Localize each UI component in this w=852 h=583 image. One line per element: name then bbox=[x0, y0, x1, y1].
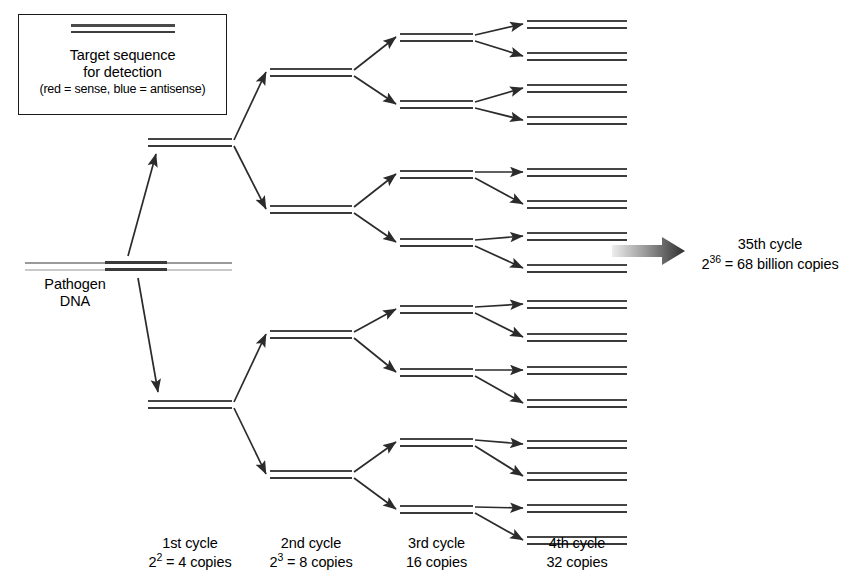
sense-strand bbox=[400, 368, 473, 370]
duplex-cycle-4-2 bbox=[527, 52, 627, 61]
legend-line-2: for detection bbox=[19, 64, 226, 81]
duplex-cycle-3-8 bbox=[400, 505, 473, 514]
sense-strand bbox=[527, 504, 627, 506]
cycle-label-cycle-4: 4th cycle32 copies bbox=[507, 534, 647, 572]
arrow-c1-2-to-c2-4 bbox=[234, 408, 266, 474]
sense-strand bbox=[270, 330, 352, 332]
legend-antisense-strand bbox=[71, 31, 175, 34]
duplex-cycle-3-6 bbox=[400, 368, 473, 377]
cycle-label-rest: = 8 copies bbox=[283, 554, 352, 570]
sense-strand bbox=[527, 52, 627, 54]
duplex-cycle-3-1 bbox=[400, 33, 473, 42]
cycle-label-copies: 23 = 8 copies bbox=[241, 553, 381, 572]
duplex-cycle-4-4 bbox=[527, 116, 627, 125]
duplex-cycle-1-1 bbox=[148, 138, 232, 147]
arrow-c3-7-to-c4-13 bbox=[475, 440, 523, 444]
antisense-strand bbox=[527, 207, 627, 209]
antisense-strand bbox=[527, 123, 627, 125]
antisense-strand bbox=[400, 312, 473, 314]
sense-strand bbox=[527, 399, 627, 401]
arrow-c3-5-to-c4-9 bbox=[475, 304, 523, 307]
antisense-strand bbox=[148, 407, 232, 409]
duplex-cycle-4-15 bbox=[527, 504, 627, 513]
sense-strand bbox=[400, 238, 473, 240]
duplex-cycle-3-3 bbox=[400, 170, 473, 179]
arrow-c3-4-to-c4-7 bbox=[475, 236, 523, 240]
duplex-cycle-4-5 bbox=[527, 168, 627, 177]
legend-target-duplex bbox=[71, 24, 175, 34]
cycle-label-title: 1st cycle bbox=[120, 534, 260, 553]
duplex-cycle-3-7 bbox=[400, 438, 473, 447]
cycle-label-title: 4th cycle bbox=[507, 534, 647, 553]
antisense-strand bbox=[527, 59, 627, 61]
sense-strand bbox=[527, 232, 627, 234]
antisense-strand bbox=[527, 91, 627, 93]
arrow-c3-1-to-c4-2 bbox=[475, 41, 523, 56]
arrow-c1-1-to-c2-1 bbox=[234, 72, 266, 140]
sense-strand bbox=[400, 438, 473, 440]
duplex-cycle-4-13 bbox=[527, 440, 627, 449]
cycle-label-cycle-1: 1st cycle22 = 4 copies bbox=[120, 534, 260, 572]
legend-text-block: Target sequence for detection (red = sen… bbox=[19, 47, 226, 98]
duplex-cycle-4-9 bbox=[527, 300, 627, 309]
sense-strand bbox=[527, 20, 627, 22]
final-cycle-line-2: 236 = 68 billion copies bbox=[690, 254, 850, 274]
duplex-cycle-3-5 bbox=[400, 305, 473, 314]
arrow-c3-5-to-c4-10 bbox=[475, 313, 523, 337]
final-cycle-annotation: 35th cycle 236 = 68 billion copies bbox=[690, 234, 850, 274]
duplex-cycle-4-1 bbox=[527, 20, 627, 29]
sense-strand bbox=[270, 205, 352, 207]
duplex-cycle-4-6 bbox=[527, 200, 627, 209]
pathogen-label-line-1: Pathogen bbox=[27, 276, 123, 293]
legend-box: Target sequence for detection (red = sen… bbox=[18, 14, 227, 115]
pathogen-label-line-2: DNA bbox=[27, 293, 123, 310]
antisense-strand bbox=[400, 512, 473, 514]
antisense-strand bbox=[527, 447, 627, 449]
antisense-strand bbox=[400, 177, 473, 179]
antisense-strand bbox=[527, 175, 627, 177]
duplex-cycle-4-14 bbox=[527, 472, 627, 481]
sense-strand bbox=[527, 472, 627, 474]
cycle-label-copies: 22 = 4 copies bbox=[120, 553, 260, 572]
arrow-c3-2-to-c4-3 bbox=[475, 88, 523, 102]
antisense-strand bbox=[527, 340, 627, 342]
sense-strand bbox=[270, 68, 352, 70]
final-cycle-line-1: 35th cycle bbox=[690, 234, 850, 254]
sense-strand bbox=[400, 100, 473, 102]
duplex-cycle-2-4 bbox=[270, 470, 352, 479]
antisense-strand bbox=[527, 373, 627, 375]
cycle-label-cycle-3: 3rd cycle16 copies bbox=[367, 534, 507, 572]
arrow-c3-2-to-c4-4 bbox=[475, 108, 523, 120]
arrow-c2-3-to-c3-6 bbox=[354, 338, 396, 372]
duplex-cycle-4-3 bbox=[527, 84, 627, 93]
duplex-cycle-4-12 bbox=[527, 399, 627, 408]
duplex-cycle-3-2 bbox=[400, 100, 473, 109]
arrow-c2-2-to-c3-3 bbox=[354, 174, 396, 207]
arrow-c2-4-to-c3-8 bbox=[354, 478, 396, 509]
pathogen-dna-label: Pathogen DNA bbox=[27, 276, 123, 310]
legend-line-1: Target sequence bbox=[19, 47, 226, 64]
antisense-strand bbox=[400, 107, 473, 109]
duplex-cycle-3-4 bbox=[400, 238, 473, 247]
arrow-source-to-cycle1-1 bbox=[128, 154, 156, 256]
duplex-cycle-2-2 bbox=[270, 205, 352, 214]
antisense-strand bbox=[270, 212, 352, 214]
antisense-strand bbox=[400, 40, 473, 42]
final-exponent: 36 bbox=[709, 253, 720, 265]
sense-strand bbox=[527, 440, 627, 442]
legend-sense-strand bbox=[71, 24, 175, 27]
sense-strand bbox=[527, 366, 627, 368]
legend-line-3: (red = sense, blue = antisense) bbox=[19, 81, 226, 98]
cycle-label-rest: = 4 copies bbox=[162, 554, 231, 570]
antisense-strand bbox=[400, 445, 473, 447]
arrow-c3-8-to-c4-15 bbox=[475, 507, 523, 508]
pcr-diagram-canvas: Target sequence for detection (red = sen… bbox=[0, 0, 852, 583]
cycle-label-copies: 32 copies bbox=[507, 553, 647, 572]
antisense-strand bbox=[270, 75, 352, 77]
sense-strand bbox=[400, 33, 473, 35]
duplex-cycle-4-11 bbox=[527, 366, 627, 375]
arrow-c3-6-to-c4-12 bbox=[475, 376, 523, 403]
duplex-cycle-4-10 bbox=[527, 333, 627, 342]
cycle-label-cycle-2: 2nd cycle23 = 8 copies bbox=[241, 534, 381, 572]
arrow-c2-2-to-c3-4 bbox=[354, 213, 396, 242]
